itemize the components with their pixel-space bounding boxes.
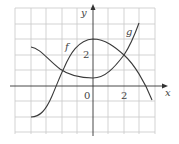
x-axis-label: x	[165, 87, 171, 98]
x-tick-label-2: 2	[121, 90, 127, 101]
graph: y x 0 2 2 f g	[0, 0, 179, 144]
origin-label: 0	[84, 90, 90, 101]
grid	[15, 8, 155, 134]
y-axis-arrow-icon	[91, 4, 96, 10]
g-label: g	[126, 26, 132, 37]
f-label: f	[64, 41, 71, 52]
y-axis-label: y	[80, 7, 87, 18]
y-tick-label-2: 2	[83, 49, 89, 60]
